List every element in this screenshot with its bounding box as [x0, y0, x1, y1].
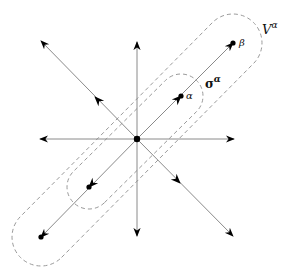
point-alpha	[178, 93, 183, 98]
point-neg-beta	[38, 234, 43, 239]
ray-up-left	[41, 41, 137, 139]
point-neg-alpha	[86, 184, 91, 189]
sigma-sup: α	[214, 74, 221, 84]
point-beta	[230, 40, 235, 45]
beta-label: β	[238, 37, 245, 48]
sigma-base: σ	[205, 77, 214, 91]
alpha-label: α	[186, 90, 193, 101]
sigma-alpha-label: σα	[205, 74, 221, 91]
point-origin	[134, 136, 140, 142]
label-layer: α β σα Vα	[186, 20, 277, 101]
V-alpha-label: Vα	[262, 20, 277, 37]
root-system-diagram: α β σα Vα	[0, 0, 295, 278]
V-sup: α	[271, 20, 277, 30]
ray-down-right	[137, 139, 233, 236]
ray-up-right	[137, 43, 233, 139]
ray-up-left-mid-arrow-icon	[91, 93, 104, 106]
